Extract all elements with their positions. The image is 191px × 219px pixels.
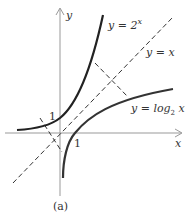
x-axis: [5, 129, 182, 137]
x-axis-label: x: [175, 137, 182, 150]
y-axis-label: y: [65, 9, 73, 22]
x-tick-1: 1: [74, 137, 81, 150]
identity-line: [13, 17, 173, 183]
identity-label: y = x: [145, 46, 175, 59]
exponential-label: y = 2x: [107, 17, 142, 32]
logarithm-label: y = log2 x: [130, 102, 186, 117]
figure-caption: (a): [53, 200, 68, 213]
reflection-dash-upper: [95, 63, 128, 97]
inverse-functions-figure: y x 1 1 y = 2x y = x y = log2 x (a): [0, 0, 191, 219]
